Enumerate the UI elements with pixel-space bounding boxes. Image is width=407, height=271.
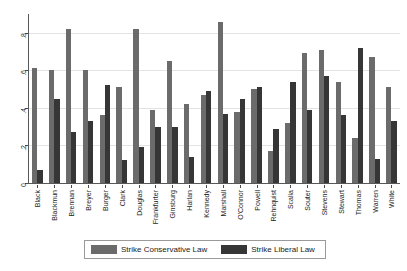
plot-area: 0.2.4.6.8 [0, 0, 407, 190]
x-tick-label: Harlan [186, 190, 193, 211]
x-tick-mark [341, 185, 342, 188]
bar-group [349, 14, 366, 183]
x-tick-mark [71, 185, 72, 188]
bar-group [96, 14, 113, 183]
y-tick-label: .6 [21, 70, 28, 76]
x-tick-label: Warren [371, 190, 378, 213]
x-tick-mark [240, 185, 241, 188]
x-tick-label: Stewart [337, 190, 344, 214]
bar-group [332, 14, 349, 183]
x-label-cell: Blackmun [46, 185, 63, 241]
x-tick-mark [88, 185, 89, 188]
x-tick-label: Frankfurter [152, 190, 159, 224]
x-tick-mark [375, 185, 376, 188]
bar-strike-liberal-law [240, 99, 245, 184]
x-label-cell: Breyer [80, 185, 97, 241]
bar-strike-liberal-law [155, 127, 160, 183]
x-tick-mark [206, 185, 207, 188]
x-label-cell: Rehnquist [265, 185, 282, 241]
bar-strike-liberal-law [341, 115, 346, 183]
x-tick-mark [391, 185, 392, 188]
x-label-cell: Harlan [181, 185, 198, 241]
x-tick-label: Kennedy [203, 190, 210, 218]
bar-strike-liberal-law [307, 110, 312, 183]
x-label-cell: Clark [113, 185, 130, 241]
y-tick-label: .4 [21, 108, 28, 114]
x-label-cell: Kennedy [198, 185, 215, 241]
x-tick-label: Clark [118, 190, 125, 206]
bar-strike-liberal-law [139, 147, 144, 183]
bar-group [63, 14, 80, 183]
x-label-cell: Souter [299, 185, 316, 241]
x-tick-label: Breyer [85, 190, 92, 211]
bar-group [248, 14, 265, 183]
x-label-cell: Stewart [332, 185, 349, 241]
bars-area [29, 14, 400, 183]
x-label-cell: Ginsburg [164, 185, 181, 241]
bar-strike-liberal-law [324, 76, 329, 183]
bar-group [383, 14, 400, 183]
bar-group [164, 14, 181, 183]
bar-strike-liberal-law [257, 87, 262, 183]
bar-group [147, 14, 164, 183]
x-label-cell: Scalia [282, 185, 299, 241]
bar-strike-liberal-law [172, 127, 177, 183]
bar-strike-liberal-law [375, 159, 380, 183]
x-tick-label: Souter [304, 190, 311, 211]
x-label-cell: White [383, 185, 400, 241]
x-tick-mark [37, 185, 38, 188]
legend-label-conservative: Strike Conservative Law [121, 245, 207, 254]
x-tick-mark [139, 185, 140, 188]
x-tick-label: White [388, 190, 395, 208]
bar-strike-liberal-law [122, 160, 127, 183]
bar-strike-conservative-law [32, 68, 37, 183]
bar-strike-liberal-law [37, 170, 42, 183]
bar-group [130, 14, 147, 183]
x-tick-mark [54, 185, 55, 188]
bar-strike-liberal-law [71, 132, 76, 183]
bar-strike-liberal-law [189, 157, 194, 183]
bar-group [80, 14, 97, 183]
x-tick-label: Rehnquist [270, 190, 277, 222]
bar-strike-liberal-law [273, 129, 278, 183]
chart-legend: Strike Conservative Law Strike Liberal L… [84, 240, 326, 259]
x-tick-mark [358, 185, 359, 188]
x-tick-label: Powell [253, 190, 260, 211]
x-tick-mark [122, 185, 123, 188]
x-label-cell: Stevens [316, 185, 333, 241]
x-tick-mark [172, 185, 173, 188]
x-label-cell: Black [29, 185, 46, 241]
x-axis-line [28, 183, 400, 184]
x-tick-label: Brennan [68, 190, 75, 216]
x-tick-mark [155, 185, 156, 188]
bar-group [299, 14, 316, 183]
x-label-cell: O'Connor [231, 185, 248, 241]
x-tick-mark [324, 185, 325, 188]
bar-strike-liberal-law [88, 121, 93, 183]
x-label-cell: Powell [248, 185, 265, 241]
bar-group [366, 14, 383, 183]
x-label-cell: Burger [96, 185, 113, 241]
x-tick-mark [273, 185, 274, 188]
bar-strike-liberal-law [206, 91, 211, 183]
bar-group [113, 14, 130, 183]
legend-label-liberal: Strike Liberal Law [251, 245, 315, 254]
bar-chart: 0.2.4.6.8 BlackBlackmunBrennanBreyerBurg… [0, 0, 407, 271]
x-tick-mark [290, 185, 291, 188]
x-label-cell: Douglas [130, 185, 147, 241]
bar-group [282, 14, 299, 183]
bar-strike-liberal-law [358, 48, 363, 183]
legend-swatch-icon-liberal [221, 245, 247, 254]
x-tick-label: Thomas [354, 190, 361, 215]
bar-strike-liberal-law [290, 82, 295, 183]
bar-strike-liberal-law [223, 114, 228, 183]
x-tick-mark [189, 185, 190, 188]
x-tick-label: Burger [101, 190, 108, 211]
bar-group [181, 14, 198, 183]
x-label-cell: Warren [366, 185, 383, 241]
bar-group [29, 14, 46, 183]
x-label-cell: Thomas [349, 185, 366, 241]
x-tick-mark [223, 185, 224, 188]
x-label-cell: Marshall [214, 185, 231, 241]
bar-strike-liberal-law [105, 85, 110, 183]
